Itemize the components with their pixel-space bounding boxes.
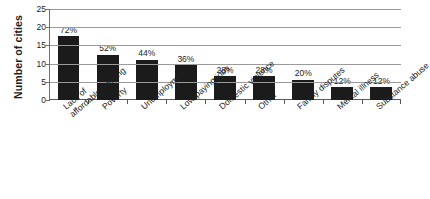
gridline: [49, 45, 401, 46]
x-axis-category-labels: Lack ofaffordable housingPovertyUnemploy…: [49, 104, 401, 199]
gridline: [49, 9, 401, 10]
y-axis-tickmark: [46, 27, 50, 28]
y-axis-tick-label: 20: [26, 23, 46, 32]
y-axis-title: Number of cities: [12, 7, 26, 107]
bar-value-label: 36%: [166, 55, 205, 64]
y-axis-tick-label: 25: [26, 5, 46, 14]
y-axis-tick-label: 5: [26, 78, 46, 87]
y-axis-tickmark: [46, 82, 50, 83]
y-axis-tick-label: 15: [26, 41, 46, 50]
y-axis-tickmark: [46, 45, 50, 46]
y-axis-tickmark: [46, 100, 50, 101]
bar-value-label: 44%: [127, 49, 166, 58]
y-axis-tick-labels: 2520151050: [26, 9, 46, 100]
bar-value-label: 20%: [284, 69, 323, 78]
gridline: [49, 27, 401, 28]
y-axis-tickmark: [46, 9, 50, 10]
y-axis-tick-label: 10: [26, 59, 46, 68]
y-axis-tick-label: 0: [26, 96, 46, 105]
y-axis-tickmark: [46, 64, 50, 65]
